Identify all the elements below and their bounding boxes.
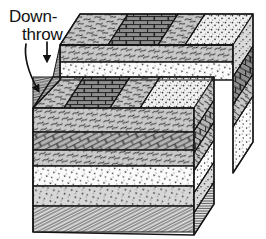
downthrown-top-surface [33, 77, 214, 108]
front-shale-2 [33, 150, 194, 166]
downthrow-label-line1: Down- [9, 8, 57, 25]
downthrown-front-face [33, 108, 194, 232]
front-shale-1 [33, 108, 194, 132]
front-limestone-1 [33, 132, 194, 150]
front-sandstone-white [33, 166, 194, 186]
front-sandstone-gray [33, 186, 194, 206]
upthrown-front-shale [60, 45, 233, 62]
front-laminated [33, 206, 194, 232]
geological-block-diagram: Down- throw [0, 0, 266, 239]
downthrow-label-line2: throw [22, 26, 63, 43]
upthrown-top-surface [60, 14, 253, 45]
